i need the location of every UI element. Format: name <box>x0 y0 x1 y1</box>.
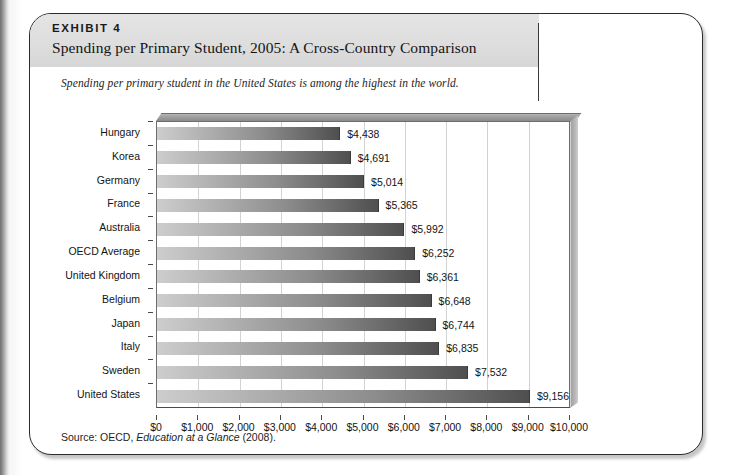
source-suffix: (2008). <box>240 431 276 443</box>
exhibit-subtitle: Spending per primary student in the Unit… <box>61 77 459 89</box>
bar-row: $5,014 <box>157 170 569 194</box>
bar-japan <box>157 318 436 331</box>
value-tick <box>445 415 446 420</box>
bar-value-label: $6,744 <box>443 319 475 331</box>
category-label-japan: Japan <box>111 317 152 329</box>
value-tick <box>321 415 322 420</box>
bar-germany <box>157 175 364 188</box>
category-tick <box>148 288 153 289</box>
bar-value-label: $5,365 <box>386 199 418 211</box>
category-tick <box>148 121 153 122</box>
value-tick <box>197 415 198 420</box>
source-title: Education at a Glance <box>136 431 239 443</box>
category-label-oecd-average: OECD Average <box>68 245 152 257</box>
bar-value-label: $7,532 <box>475 366 507 378</box>
plot-shell: $4,438$4,691$5,014$5,365$5,992$6,252$6,3… <box>156 113 578 415</box>
value-tick-label: $8,000 <box>470 421 502 433</box>
category-tick <box>148 312 153 313</box>
bar-chart: HungaryKoreaGermanyFranceAustraliaOECD A… <box>30 100 704 430</box>
plot-area: $4,438$4,691$5,014$5,365$5,992$6,252$6,3… <box>156 121 570 408</box>
value-tick <box>486 415 487 420</box>
bar-oecd-average <box>157 247 415 260</box>
bar-value-label: $6,361 <box>427 271 459 283</box>
category-label-france: France <box>107 197 152 209</box>
bar-value-label: $5,992 <box>411 223 443 235</box>
bar-row: $5,992 <box>157 217 569 241</box>
category-label-belgium: Belgium <box>102 293 152 305</box>
header-divider-rule <box>538 23 539 101</box>
value-tick-label: $4,000 <box>305 421 337 433</box>
category-tick <box>148 145 153 146</box>
value-tick <box>569 415 570 420</box>
bar-row: $4,691 <box>157 146 569 170</box>
category-label-germany: Germany <box>97 174 152 186</box>
category-label-sweden: Sweden <box>102 364 152 376</box>
page-gutter-shadow <box>0 0 9 475</box>
bar-united-kingdom <box>157 270 420 283</box>
bar-row: $5,365 <box>157 194 569 218</box>
bar-hungary <box>157 127 340 140</box>
value-tick-label: $10,000 <box>550 421 588 433</box>
category-label-australia: Australia <box>99 221 152 233</box>
bar-australia <box>157 223 404 236</box>
bar-row: $6,252 <box>157 241 569 265</box>
bar-value-label: $4,438 <box>347 128 379 140</box>
exhibit-card: EXHIBIT 4 Spending per Primary Student, … <box>29 13 703 455</box>
value-tick-label: $7,000 <box>429 421 461 433</box>
category-label-italy: Italy <box>121 340 152 352</box>
category-tick <box>148 216 153 217</box>
bar-italy <box>157 342 439 355</box>
bar-sweden <box>157 366 468 379</box>
bar-value-label: $9,156 <box>537 390 569 402</box>
value-tick-label: $9,000 <box>512 421 544 433</box>
category-tick <box>148 336 153 337</box>
bar-value-label: $4,691 <box>358 152 390 164</box>
bar-rows: $4,438$4,691$5,014$5,365$5,992$6,252$6,3… <box>157 122 569 407</box>
value-tick-label: $5,000 <box>346 421 378 433</box>
bar-row: $6,648 <box>157 289 569 313</box>
bar-row: $6,744 <box>157 313 569 337</box>
category-tick <box>148 240 153 241</box>
category-tick <box>148 359 153 360</box>
value-tick <box>528 415 529 420</box>
bar-row: $6,361 <box>157 265 569 289</box>
bar-value-label: $6,252 <box>422 247 454 259</box>
bar-row: $4,438 <box>157 122 569 146</box>
plot-3d-top-face <box>156 113 581 121</box>
bar-row: $6,835 <box>157 337 569 361</box>
exhibit-kicker: EXHIBIT 4 <box>52 21 539 35</box>
bar-value-label: $6,835 <box>446 342 478 354</box>
source-note: Source: OECD, Education at a Glance (200… <box>61 431 276 443</box>
category-axis-labels: HungaryKoreaGermanyFranceAustraliaOECD A… <box>30 113 152 415</box>
bar-france <box>157 199 379 212</box>
source-prefix: Source: OECD, <box>61 431 136 443</box>
value-tick <box>280 415 281 420</box>
gridline <box>570 122 571 407</box>
bar-korea <box>157 151 351 164</box>
bar-row: $7,532 <box>157 360 569 384</box>
value-tick <box>363 415 364 420</box>
category-label-united-kingdom: United Kingdom <box>65 269 152 281</box>
value-tick <box>239 415 240 420</box>
category-label-united-states: United States <box>77 388 152 400</box>
bar-row: $9,156 <box>157 384 569 408</box>
value-tick-label: $6,000 <box>388 421 420 433</box>
bar-united-states <box>157 390 530 403</box>
category-tick <box>148 193 153 194</box>
category-tick <box>148 169 153 170</box>
category-tick <box>148 383 153 384</box>
bar-value-label: $5,014 <box>371 176 403 188</box>
exhibit-header-band: EXHIBIT 4 Spending per Primary Student, … <box>30 14 539 67</box>
value-tick <box>404 415 405 420</box>
plot-3d-right-face <box>570 116 578 408</box>
value-tick <box>156 415 157 420</box>
exhibit-title: Spending per Primary Student, 2005: A Cr… <box>52 37 539 58</box>
category-label-hungary: Hungary <box>100 126 152 138</box>
page-edge <box>9 0 22 475</box>
category-tick <box>148 264 153 265</box>
bar-value-label: $6,648 <box>439 295 471 307</box>
category-label-korea: Korea <box>112 150 152 162</box>
bar-belgium <box>157 294 432 307</box>
